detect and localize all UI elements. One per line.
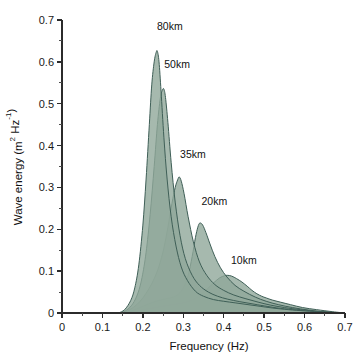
- y-tick-label: 0.4: [39, 140, 54, 152]
- y-axis-title: Wave energy (m2 Hz-1): [4, 109, 25, 226]
- x-tick-label: 0: [59, 321, 65, 333]
- series-label-20km: 20km: [201, 195, 227, 207]
- y-tick-label: 0.6: [39, 56, 54, 68]
- series-label-80km: 80km: [157, 20, 183, 32]
- x-axis-title: Frequency (Hz): [169, 340, 248, 352]
- series-label-35km: 35km: [180, 148, 206, 160]
- y-tick-label: 0.7: [39, 14, 54, 26]
- x-tick-label: 0.5: [256, 321, 271, 333]
- y-tick-label: 0.3: [39, 181, 54, 193]
- x-tick-label: 0.3: [176, 321, 191, 333]
- wave-energy-spectrum-chart: 00.10.20.30.40.50.60.7 00.10.20.30.40.50…: [0, 0, 361, 355]
- x-tick-label: 0.7: [337, 321, 352, 333]
- y-tick-label: 0: [48, 307, 54, 319]
- x-tick-label: 0.2: [135, 321, 150, 333]
- y-tick-label: 0.2: [39, 223, 54, 235]
- spectra-area-layer: [119, 50, 345, 313]
- chart-figure: 00.10.20.30.40.50.60.7 00.10.20.30.40.50…: [0, 0, 361, 355]
- y-tick-label: 0.5: [39, 98, 54, 110]
- x-axis-tick-labels: 00.10.20.30.40.50.60.7: [59, 321, 353, 333]
- x-tick-label: 0.1: [95, 321, 110, 333]
- x-tick-label: 0.6: [297, 321, 312, 333]
- series-label-50km: 50km: [164, 58, 190, 70]
- spectrum-area-80km: [119, 50, 345, 313]
- y-tick-label: 0.1: [39, 265, 54, 277]
- y-axis-tick-labels: 00.10.20.30.40.50.60.7: [39, 14, 54, 319]
- x-tick-label: 0.4: [216, 321, 231, 333]
- series-label-10km: 10km: [231, 254, 257, 266]
